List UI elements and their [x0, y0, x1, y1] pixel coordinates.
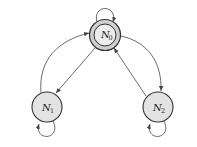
edge-N0-N1 — [56, 48, 95, 93]
node-N2: N 2 — [143, 92, 173, 122]
edge-N2-N2 — [149, 121, 165, 136]
edge-N1-N1 — [38, 121, 54, 136]
edge-N2-N0 — [114, 48, 146, 96]
node-label-sub: 2 — [161, 107, 165, 115]
state-diagram: N 0 N 1 N 2 — [0, 0, 197, 147]
node-N0: N 0 — [90, 20, 121, 51]
node-N1: N 1 — [32, 92, 62, 122]
edge-N0-N2 — [121, 36, 161, 91]
node-label-sub: 0 — [109, 34, 113, 42]
node-label-sub: 1 — [50, 107, 54, 115]
